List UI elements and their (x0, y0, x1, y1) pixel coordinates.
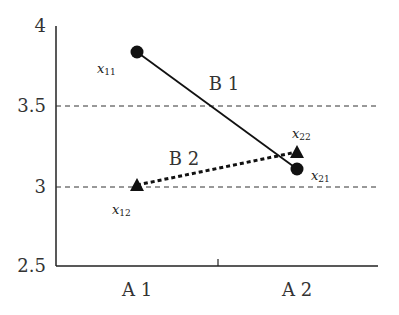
series-b1-line (137, 52, 297, 169)
point-label-x22: x22 (292, 126, 311, 142)
series-b2-line (137, 152, 297, 185)
x-label-a2: A 2 (281, 279, 312, 300)
series-label-b1: B 1 (209, 73, 239, 94)
series-label-b2: B 2 (169, 148, 199, 169)
point-label-x11: x11 (97, 61, 116, 77)
y-tick-4: 4 (35, 15, 46, 36)
y-tick-3.5: 3.5 (17, 95, 46, 116)
point-x12-triangle-icon (130, 178, 144, 191)
point-x11-circle-icon (131, 46, 144, 59)
point-x21-circle-icon (291, 163, 304, 176)
x-label-a1: A 1 (121, 279, 152, 300)
y-tick-3: 3 (35, 176, 46, 197)
point-label-x21: x21 (311, 168, 330, 184)
y-tick-2.5: 2.5 (17, 255, 46, 276)
point-label-x12: x12 (112, 202, 131, 218)
interaction-chart: 4 3.5 3 2.5 A 1 A 2 B 1 B 2 x11 x12 x22 … (0, 0, 399, 315)
point-x22-triangle-icon (290, 145, 304, 158)
